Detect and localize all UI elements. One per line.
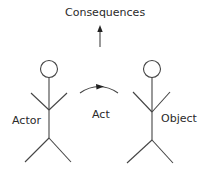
actor-stick-figure — [25, 61, 71, 163]
actor-label: Actor — [12, 115, 41, 126]
actor-act-object-diagram — [0, 0, 205, 176]
act-arrow — [80, 84, 118, 93]
object-head — [144, 61, 161, 78]
object-label: Object — [161, 113, 197, 124]
consequences-label: Consequences — [65, 7, 145, 18]
consequences-arrow — [97, 25, 102, 47]
actor-head — [41, 61, 58, 78]
act-label: Act — [92, 109, 110, 120]
